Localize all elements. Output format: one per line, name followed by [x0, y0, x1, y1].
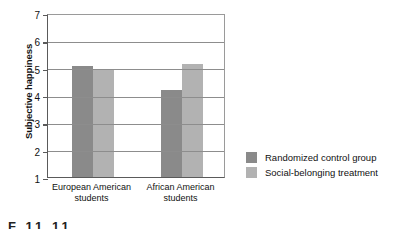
gridline-y-6	[48, 42, 224, 43]
y-tick-mark-3	[43, 124, 48, 125]
gridline-y-2	[48, 151, 224, 152]
y-tick-label-4: 4	[18, 92, 40, 103]
legend-label-1: Randomized control group	[265, 152, 376, 163]
x-axis-category-labels: European AmericanstudentsAfrican America…	[47, 180, 225, 212]
bar-1-1	[72, 66, 93, 177]
y-tick-label-7: 7	[18, 10, 40, 21]
y-tick-mark-2	[43, 152, 48, 153]
y-tick-label-6: 6	[18, 37, 40, 48]
legend-item-2: Social-belonging treatment	[246, 165, 378, 180]
y-tick-mark-6	[43, 42, 48, 43]
y-tick-label-5: 5	[18, 64, 40, 75]
gridline-y-5	[48, 69, 224, 70]
chart-legend: Randomized control groupSocial-belonging…	[246, 150, 378, 180]
plot-area: 1234567	[47, 14, 225, 178]
figure-caption-partial: F 11 11	[8, 219, 72, 229]
bar-2-1	[161, 90, 182, 177]
gridline-y-3	[48, 124, 224, 125]
y-tick-mark-5	[43, 70, 48, 71]
x-axis-label-2: African Americanstudents	[121, 182, 241, 204]
y-tick-mark-7	[43, 15, 48, 16]
legend-swatch-1	[246, 152, 257, 163]
y-tick-mark-4	[43, 97, 48, 98]
bar-2-2	[182, 64, 203, 177]
legend-item-1: Randomized control group	[246, 150, 378, 165]
y-tick-label-3: 3	[18, 119, 40, 130]
legend-label-2: Social-belonging treatment	[265, 167, 378, 178]
figure-bar-chart: Subjective happiness 1234567 European Am…	[0, 0, 404, 229]
gridline-y-4	[48, 97, 224, 98]
y-tick-label-2: 2	[18, 146, 40, 157]
legend-swatch-2	[246, 167, 257, 178]
